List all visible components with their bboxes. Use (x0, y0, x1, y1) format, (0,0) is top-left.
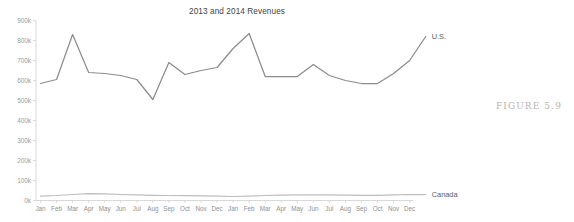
y-axis: 0k100k200k300k400k500k600k700k800k900k (17, 17, 36, 204)
x-tick-label: Sep (163, 205, 175, 213)
y-tick-label: 700k (17, 57, 32, 64)
x-tick-label: May (291, 205, 304, 213)
series-line-canada (41, 194, 426, 197)
y-tick-label: 400k (17, 117, 32, 124)
x-tick-label: Feb (51, 205, 62, 212)
x-tick-label: Jan (35, 205, 46, 212)
x-tick-label: Mar (260, 205, 271, 212)
line-chart: 0k100k200k300k400k500k600k700k800k900k J… (0, 0, 574, 222)
x-tick-label: Aug (147, 205, 159, 213)
x-tick-label: Nov (388, 205, 400, 212)
x-tick-label: Jan (228, 205, 239, 212)
series-line-u-s- (41, 34, 426, 100)
x-tick-label: Jul (133, 205, 141, 212)
series-label-canada: Canada (432, 190, 459, 199)
x-tick-label: Dec (211, 205, 222, 212)
x-tick-label: May (99, 205, 112, 213)
y-tick-label: 800k (17, 37, 32, 44)
x-tick-label: Feb (244, 205, 255, 212)
figure-caption: FIGURE 5.9 (496, 101, 562, 111)
y-tick-label: 600k (17, 77, 32, 84)
x-tick-label: Apr (276, 205, 286, 213)
figure-container: 2013 and 2014 Revenues 0k100k200k300k400… (0, 0, 574, 222)
x-tick-label: Apr (84, 205, 94, 213)
x-tick-label: Jun (308, 205, 319, 212)
chart-series-group (41, 34, 426, 197)
x-axis: JanFebMarAprMayJunJulAugSepOctNovDecJanF… (35, 201, 415, 214)
y-tick-label: 200k (17, 157, 32, 164)
x-tick-label: Mar (67, 205, 78, 212)
y-tick-label: 500k (17, 97, 32, 104)
y-tick-label: 100k (17, 177, 32, 184)
series-label-u-s-: U.S. (432, 32, 446, 41)
x-tick-label: Oct (373, 205, 383, 212)
x-tick-label: Jul (325, 205, 333, 212)
y-tick-label: 900k (17, 17, 32, 24)
x-tick-label: Oct (180, 205, 190, 212)
x-tick-label: Jun (116, 205, 127, 212)
series-labels: U.S.Canada (432, 32, 459, 199)
y-tick-label: 300k (17, 137, 32, 144)
y-tick-label: 0k (24, 197, 32, 204)
x-tick-label: Dec (404, 205, 415, 212)
x-tick-label: Sep (356, 205, 368, 213)
x-tick-label: Nov (195, 205, 207, 212)
x-tick-label: Aug (340, 205, 352, 213)
